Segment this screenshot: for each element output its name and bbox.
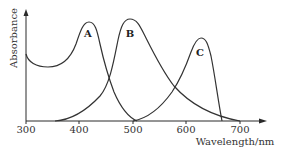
y-axis-arrow-icon [24, 9, 29, 16]
peak-label-a: A [83, 28, 92, 39]
absorbance-spectrum-chart: 300 400 500 600 700 Wavelength/nm Absorb… [0, 0, 281, 150]
x-tick-label-300: 300 [16, 124, 35, 135]
curve-c [133, 38, 222, 121]
x-tick-label-700: 700 [230, 124, 249, 135]
x-tick-label-500: 500 [123, 124, 142, 135]
x-tick-label-600: 600 [176, 124, 195, 135]
peak-label-c: C [196, 47, 204, 58]
curve-a [26, 22, 137, 121]
x-axis-arrow-icon [259, 119, 267, 124]
peak-label-b: B [126, 28, 134, 39]
x-tick-label-400: 400 [69, 124, 88, 135]
y-axis-title: Absorbance [8, 8, 19, 69]
x-axis-title: Wavelength/nm [196, 136, 275, 147]
curve-b [55, 19, 240, 121]
